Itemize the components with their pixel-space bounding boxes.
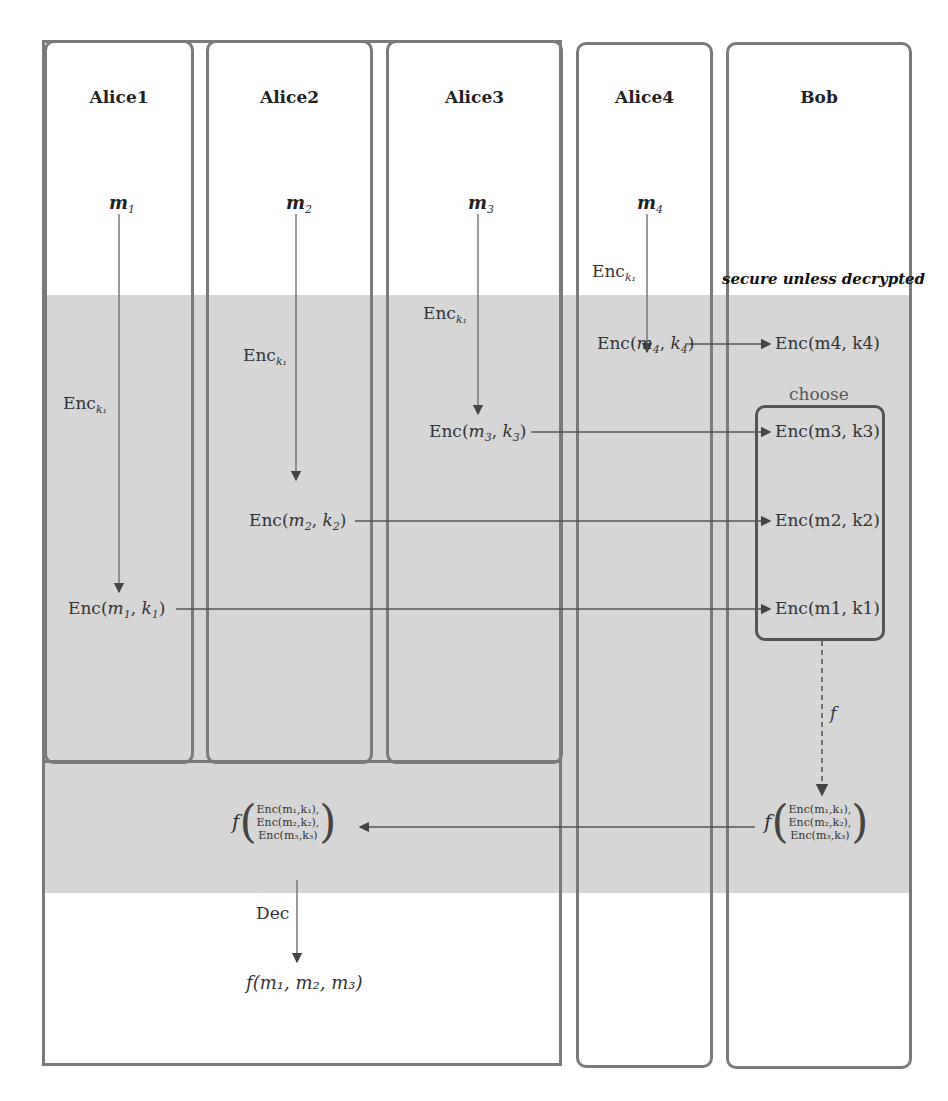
enc-label-alice3: Enck₁ <box>423 303 467 326</box>
bob-received-m2: Enc(m2, k2) <box>775 510 880 530</box>
message-m4: m4 <box>637 192 663 216</box>
bob-received-m1: Enc(m1, k1) <box>775 598 880 618</box>
bob-result-line-3: Enc(m₃,k₃) <box>789 829 852 842</box>
alices-received-result: f ( Enc(m₁,k₁), Enc(m₂,k₂), Enc(m₃,k₃) ) <box>232 802 337 842</box>
dec-label: Dec <box>256 903 289 923</box>
bob-result-line-1: Enc(m₁,k₁), <box>789 803 852 816</box>
alices-result-line-1: Enc(m₁,k₁), <box>257 803 320 816</box>
bob-result-lines: Enc(m₁,k₁), Enc(m₂,k₂), Enc(m₃,k₃) <box>789 803 852 842</box>
choose-label: choose <box>789 384 849 404</box>
left-paren: ( <box>771 802 788 842</box>
enc-label-alice2: Enck₁ <box>243 345 287 368</box>
ciphertext-alice4: Enc(m4, k4) <box>597 333 694 356</box>
message-m2: m2 <box>286 192 312 216</box>
alices-result-line-3: Enc(m₃,k₃) <box>257 829 320 842</box>
bob-received-m4: Enc(m4, k4) <box>775 333 880 353</box>
bob-result-line-2: Enc(m₂,k₂), <box>789 816 852 829</box>
ciphertext-alice3: Enc(m3, k3) <box>429 421 526 444</box>
alices-result-f: f <box>232 810 239 834</box>
function-f-label: f <box>830 703 836 723</box>
arrows-layer <box>0 0 948 1101</box>
bob-result: f ( Enc(m₁,k₁), Enc(m₂,k₂), Enc(m₃,k₃) ) <box>764 802 869 842</box>
enc-label-alice1: Enck₁ <box>63 393 107 416</box>
decrypted-output: f(m₁, m₂, m₃) <box>246 972 362 993</box>
message-m1: m1 <box>109 192 135 216</box>
right-paren: ) <box>851 802 868 842</box>
ciphertext-alice2: Enc(m2, k2) <box>249 510 346 533</box>
secure-zone-label: secure unless decrypted <box>722 270 925 288</box>
alices-result-lines: Enc(m₁,k₁), Enc(m₂,k₂), Enc(m₃,k₃) <box>257 803 320 842</box>
alices-result-line-2: Enc(m₂,k₂), <box>257 816 320 829</box>
right-paren: ) <box>319 802 336 842</box>
enc-label-alice4: Enck₁ <box>592 261 636 284</box>
left-paren: ( <box>239 802 256 842</box>
bob-received-m3: Enc(m3, k3) <box>775 421 880 441</box>
message-m3: m3 <box>468 192 494 216</box>
ciphertext-alice1: Enc(m1, k1) <box>68 598 165 621</box>
bob-result-f: f <box>764 810 771 834</box>
